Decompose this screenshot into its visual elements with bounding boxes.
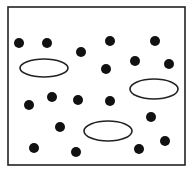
dot-18 xyxy=(160,136,170,146)
dot-17 xyxy=(134,144,144,154)
dot-10 xyxy=(47,92,57,102)
dot-7 xyxy=(164,59,174,69)
dot-2 xyxy=(42,38,52,48)
dot-3 xyxy=(76,47,86,57)
ellipse-group xyxy=(20,59,178,141)
ellipse-3 xyxy=(84,121,132,141)
dot-6 xyxy=(130,56,140,66)
container-frame xyxy=(8,7,185,165)
dot-12 xyxy=(105,96,115,106)
dot-1 xyxy=(14,38,24,48)
dot-5 xyxy=(150,36,160,46)
particle-diagram xyxy=(0,0,194,173)
dot-16 xyxy=(71,147,81,157)
ellipse-1 xyxy=(20,59,68,77)
dot-15 xyxy=(29,143,39,153)
dot-14 xyxy=(55,122,65,132)
dot-8 xyxy=(101,64,111,74)
dot-13 xyxy=(146,112,156,122)
dot-11 xyxy=(73,95,83,105)
ellipse-2 xyxy=(130,79,178,99)
dot-9 xyxy=(24,100,34,110)
dot-4 xyxy=(105,36,115,46)
